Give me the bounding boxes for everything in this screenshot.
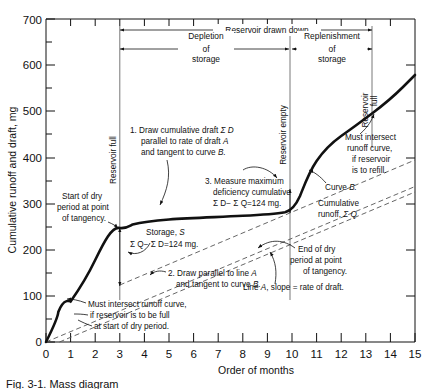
annotation-step-3: 3. Measure maximum deficiency cumulative… — [205, 167, 291, 208]
y-tick-200: 200 — [23, 244, 42, 256]
span-depletion-line3: storage — [192, 54, 220, 64]
curve-b-line3: runoff, Σ Q — [318, 210, 358, 219]
must-full-line3: at start of dry period. — [94, 322, 169, 331]
y-tick-100: 100 — [23, 290, 42, 302]
span-replenishment-line3: storage — [318, 54, 346, 64]
must-full-leader-2 — [74, 314, 88, 315]
reservoir-empty-label: Reservoir empty — [279, 104, 288, 165]
x-tick-5: 5 — [166, 348, 172, 360]
step3-line1: 3. Measure maximum — [205, 177, 284, 186]
end-dry-line3: of tangency. — [303, 267, 347, 276]
span-replenishment: Replenishment of storage — [292, 31, 372, 64]
must-full-line2: if reservoir is to be full — [90, 311, 170, 320]
must-full-line1: Must intersect runoff curve, — [88, 300, 187, 309]
x-tick-10: 10 — [286, 348, 299, 360]
x-tick-11: 11 — [311, 348, 323, 360]
end-dry-line2: period at point — [290, 256, 343, 265]
x-tick-0: 0 — [43, 348, 49, 360]
step2-line1: 2. Draw parallel to line A — [168, 269, 257, 278]
x-tick-14: 14 — [384, 348, 397, 360]
must-refill-line2: runoff curve, — [347, 144, 392, 153]
mass-diagram-chart: 0 100 200 300 400 500 600 700 Cumulative… — [0, 0, 429, 389]
step1-line2: parallel to rate of draft A — [141, 137, 229, 146]
figure-caption: Fig. 3-1. Mass diagram — [6, 378, 118, 389]
y-tick-600: 600 — [23, 59, 42, 71]
annotation-storage: Storage, S Σ Q− Σ D=124 mg. — [128, 228, 198, 254]
x-axis-tick-labels: 0 1 2 3 4 5 6 7 8 9 10 11 12 13 14 15 — [43, 348, 422, 360]
x-tick-4: 4 — [141, 348, 148, 360]
step1-line1: 1. Draw cumulative draft Σ D — [130, 126, 234, 135]
start-dry-line2: period at point — [57, 203, 110, 212]
x-tick-1: 1 — [67, 348, 73, 360]
x-axis-title: Order of months — [218, 364, 294, 376]
x-tick-6: 6 — [190, 348, 196, 360]
x-tick-8: 8 — [240, 348, 246, 360]
step1-leader — [160, 160, 169, 205]
y-tick-400: 400 — [23, 152, 42, 164]
y-tick-0: 0 — [36, 336, 42, 348]
x-tick-7: 7 — [215, 348, 221, 360]
start-dry-line3: of tangency. — [62, 214, 106, 223]
step3-line3: Σ D− Σ Q=124 mg. — [213, 199, 281, 208]
y-tick-500: 500 — [23, 105, 42, 117]
annotation-end-dry: End of dry period at point of tangency. — [258, 241, 347, 276]
x-tick-3: 3 — [117, 348, 123, 360]
span-depletion-line1: Depletion — [188, 31, 224, 41]
y-tick-300: 300 — [23, 198, 42, 210]
x-tick-9: 9 — [264, 348, 270, 360]
x-tick-13: 13 — [359, 348, 372, 360]
step3-line2: deficiency cumulative — [213, 188, 291, 197]
span-replenishment-line2: of — [329, 44, 337, 54]
curve-b-line1: Curve B. — [325, 183, 357, 192]
storage-line2: Σ Q− Σ D=124 mg. — [130, 240, 198, 249]
span-replenishment-line1: Replenishment — [304, 31, 361, 41]
storage-line1: Storage, S — [146, 228, 185, 237]
y-tick-700: 700 — [23, 14, 42, 26]
x-tick-15: 15 — [409, 348, 422, 360]
y-axis-title: Cumulative runoff and draft, mg — [6, 106, 18, 253]
must-refill-line3: if reservoir — [352, 155, 390, 164]
x-tick-2: 2 — [92, 348, 98, 360]
step1-line3: and tangent to curve B. — [141, 148, 226, 157]
start-dry-line1: Start of dry — [62, 192, 103, 201]
span-drawn-down-label: Reservoir drawn down — [225, 25, 309, 35]
end-dry-line1: End of dry — [298, 245, 336, 254]
must-refill-line1: Must intersect — [345, 133, 397, 142]
x-tick-12: 12 — [335, 348, 348, 360]
span-depletion-line2: of — [203, 44, 211, 54]
mass-diagram-figure: 0 100 200 300 400 500 600 700 Cumulative… — [0, 0, 429, 389]
annotation-must-refill: Must intersect runoff curve, if reservoi… — [345, 114, 397, 175]
annotation-start-dry: Start of dry period at point of tangency… — [57, 192, 118, 228]
line-a-leader — [270, 252, 276, 284]
must-refill-line4: is to refill. — [352, 166, 387, 175]
annotation-must-full: Must intersect runoff curve, if reservoi… — [67, 299, 187, 331]
line-a-label: Line A, slope = rate of draft. — [243, 283, 344, 292]
start-dry-leader — [108, 222, 118, 228]
curve-b-line2: Cumulative — [318, 199, 359, 208]
y-axis-tick-labels: 0 100 200 300 400 500 600 700 — [23, 14, 42, 348]
reservoir-full-left-label: Reservoir full — [109, 136, 118, 184]
